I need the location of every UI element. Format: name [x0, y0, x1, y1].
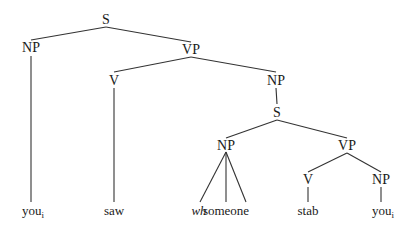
- leaf-you-2-word: you: [372, 203, 392, 218]
- node-s-embedded: S: [273, 105, 281, 120]
- edge-np-embedded-to-leaf-the: [226, 152, 246, 202]
- leaf-you-1-word: you: [22, 203, 42, 218]
- edge-vp-embedded-to-v-embedded: [308, 153, 347, 172]
- node-v-embedded: V: [303, 172, 313, 187]
- leaf-you-2-index: i: [391, 210, 394, 220]
- leaf-saw: saw: [104, 203, 125, 218]
- tree-edges: [31, 27, 381, 202]
- syntax-tree: S NP VP V NP S NP VP V NP youi saw wh so…: [0, 0, 414, 234]
- leaf-someone: someone: [203, 203, 249, 218]
- node-vp-main: VP: [182, 42, 200, 57]
- node-np-embedded: NP: [217, 138, 235, 153]
- node-np-inner: NP: [372, 172, 390, 187]
- node-v-main: V: [109, 73, 119, 88]
- tree-labels: S NP VP V NP S NP VP V NP youi saw wh so…: [22, 12, 395, 220]
- edge-s-root-to-vp-main: [106, 27, 191, 42]
- leaf-you-1-index: i: [41, 210, 44, 220]
- node-np-subject: NP: [22, 40, 40, 55]
- leaf-stab: stab: [298, 203, 319, 218]
- node-np-object: NP: [267, 73, 285, 88]
- node-vp-embedded: VP: [338, 138, 356, 153]
- leaf-you-1: youi: [22, 203, 45, 220]
- edge-vp-main-to-v-main: [114, 57, 191, 72]
- edge-s-embedded-to-vp-embedded: [277, 120, 347, 138]
- edge-np-embedded-to-leaf-wh: [200, 152, 226, 202]
- edge-vp-embedded-to-np-inner: [347, 153, 381, 172]
- leaf-you-2: youi: [372, 203, 395, 220]
- edge-s-root-to-np-subject: [31, 27, 106, 40]
- edge-s-embedded-to-np-embedded: [226, 120, 277, 138]
- node-s-root: S: [102, 12, 110, 27]
- edge-vp-main-to-np-object: [191, 57, 276, 72]
- edge-np-object-to-s-embedded: [276, 88, 277, 104]
